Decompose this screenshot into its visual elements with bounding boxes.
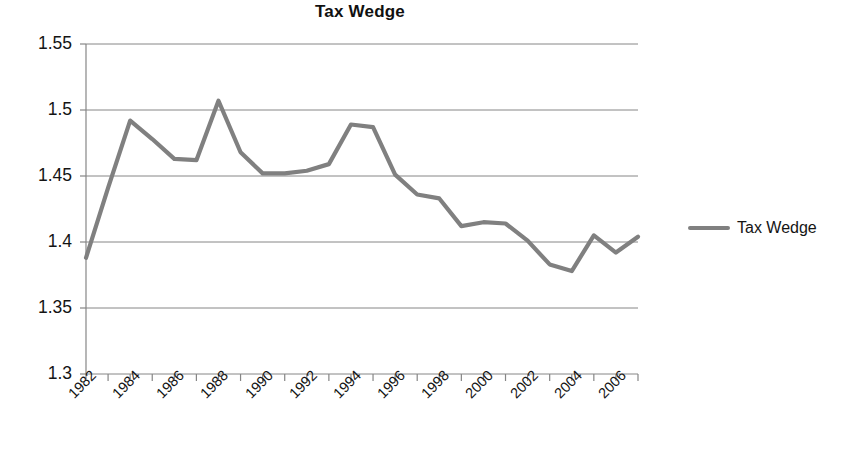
legend-label-tax-wedge: Tax Wedge — [737, 219, 817, 237]
y-tick-label: 1.3 — [0, 363, 72, 384]
legend-line-swatch — [688, 226, 730, 230]
series-line-0 — [86, 101, 638, 271]
data-series-group — [86, 101, 638, 271]
y-tick-label: 1.4 — [0, 231, 72, 252]
y-tick-label: 1.55 — [0, 33, 72, 54]
y-tick-label: 1.35 — [0, 297, 72, 318]
chart-legend: Tax Wedge — [688, 219, 817, 237]
y-tick-label: 1.45 — [0, 165, 72, 186]
gridlines-group — [86, 44, 638, 374]
chart-container: Tax Wedge 1.551.51.451.41.351.3 19821984… — [0, 0, 860, 457]
y-tick-label: 1.5 — [0, 99, 72, 120]
y-tick-marks-group — [80, 44, 86, 374]
